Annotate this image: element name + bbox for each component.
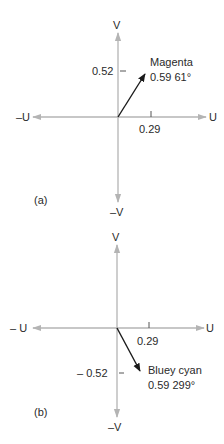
vector-value-b: 0.59 299° — [148, 379, 195, 391]
diagram-a: V –V U –U 0.29 0.52 Magenta 0.59 61° (a) — [16, 19, 217, 218]
vector-name-b: Bluey cyan — [148, 364, 202, 376]
u-tick-label-b: 0.29 — [137, 335, 158, 347]
v-axis-label-a: V — [113, 19, 121, 31]
u-tick-label-a: 0.29 — [139, 123, 160, 135]
u-axis-label-b: U — [206, 322, 214, 334]
panel-label-a: (a) — [34, 194, 47, 206]
neg-u-axis-label-a: –U — [16, 111, 30, 123]
v-tick-label-a: 0.52 — [92, 65, 113, 77]
vector-name-a: Magenta — [150, 56, 194, 68]
u-axis-label-a: U — [209, 111, 217, 123]
v-axis-label-b: V — [112, 231, 120, 243]
diagram-b: V –V U – U 0.29 – 0.52 Bluey cyan 0.59 2… — [10, 231, 214, 433]
uv-vector-diagrams: V –V U –U 0.29 0.52 Magenta 0.59 61° (a)… — [0, 0, 224, 444]
vector-value-a: 0.59 61° — [150, 71, 191, 83]
neg-u-axis-label-b: – U — [10, 322, 27, 334]
neg-v-axis-label-a: –V — [110, 206, 124, 218]
magenta-vector — [118, 74, 145, 117]
panel-label-b: (b) — [34, 406, 47, 418]
v-tick-label-b: – 0.52 — [77, 367, 108, 379]
neg-v-axis-label-b: –V — [108, 421, 122, 433]
